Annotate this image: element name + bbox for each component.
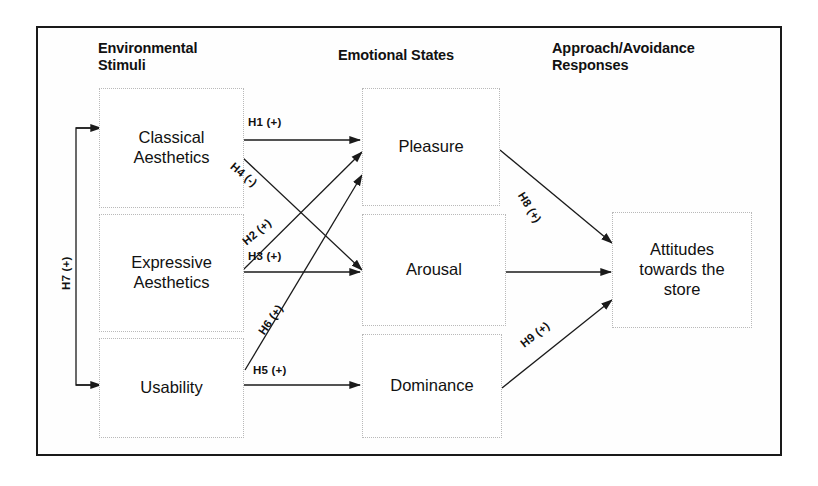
edge-label-h3: H3 (+)	[248, 250, 281, 262]
node-pleasure[interactable]: Pleasure	[362, 88, 500, 206]
diagram-canvas: Environmental Stimuli Emotional States A…	[0, 0, 818, 486]
node-arousal-label: Arousal	[402, 260, 466, 280]
column-title-environmental-stimuli: Environmental Stimuli	[98, 40, 278, 74]
node-attitudes-label: Attitudes towards the store	[635, 240, 728, 299]
node-classical-aesthetics-label: Classical Aesthetics	[129, 128, 213, 168]
node-arousal[interactable]: Arousal	[362, 214, 506, 326]
node-usability-label: Usability	[136, 378, 206, 398]
node-attitudes[interactable]: Attitudes towards the store	[612, 212, 752, 328]
node-classical-aesthetics[interactable]: Classical Aesthetics	[99, 88, 244, 208]
column-title-emotional-states: Emotional States	[338, 47, 538, 64]
node-dominance-label: Dominance	[386, 376, 477, 396]
column-title-approach-avoidance: Approach/Avoidance Responses	[552, 40, 782, 74]
node-dominance[interactable]: Dominance	[362, 334, 502, 438]
edge-label-h5: H5 (+)	[253, 364, 286, 376]
node-expressive-aesthetics-label: Expressive Aesthetics	[127, 253, 216, 293]
node-pleasure-label: Pleasure	[394, 137, 467, 157]
node-usability[interactable]: Usability	[99, 338, 244, 438]
edge-label-h1: H1 (+)	[248, 116, 281, 128]
edge-label-h7: H7 (+)	[60, 257, 72, 290]
node-expressive-aesthetics[interactable]: Expressive Aesthetics	[99, 214, 244, 332]
